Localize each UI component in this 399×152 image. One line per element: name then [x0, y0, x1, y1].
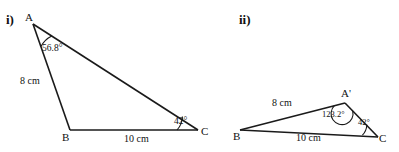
triangle-ii-side-label-BA-prime: 8 cm: [272, 98, 292, 108]
part-ii-number: ii): [239, 13, 251, 26]
triangle-i-vertex-label-C: C: [201, 126, 208, 137]
triangle-i-side-label-AB: 8 cm: [20, 76, 40, 86]
triangle-i-side-AC: [33, 24, 198, 130]
triangle-i-angle-label-C: 42°: [174, 117, 187, 127]
triangle-i-angle-label-A: 56.8°: [42, 44, 62, 54]
triangle-drawing-canvas: [0, 0, 399, 152]
triangle-i-shape: [33, 24, 198, 130]
triangle-ii-angle-label-A-prime: 123.2°: [322, 110, 345, 119]
part-i-number: i): [6, 13, 14, 26]
triangle-i-vertex-label-B: B: [62, 132, 69, 143]
triangle-i-vertex-label-A: A: [25, 12, 33, 23]
triangle-ii-vertex-label-A-prime: A': [341, 88, 351, 99]
triangle-ii-vertex-label-C: C: [379, 133, 386, 144]
triangle-ii-angle-label-C: 42°: [358, 118, 370, 127]
triangle-ii-side-label-BC: 10 cm: [296, 133, 321, 143]
geometry-figure: i) A B C 56.8° 42° 8 cm 10 cm ii) B A' C…: [0, 0, 399, 152]
triangle-i-side-label-BC: 10 cm: [124, 134, 149, 144]
triangle-ii-vertex-label-B: B: [233, 131, 240, 142]
